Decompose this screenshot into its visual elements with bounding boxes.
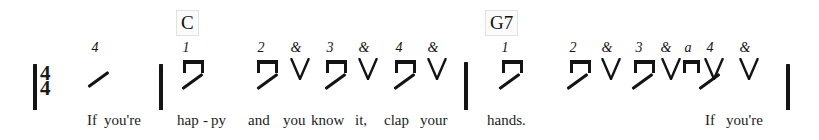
time-signature-denominator: 4: [40, 81, 50, 96]
count-label: 4: [392, 41, 406, 55]
time-signature: 44: [40, 66, 50, 96]
count-label: &: [659, 41, 673, 55]
lyric-syllable: and: [248, 112, 270, 128]
lyric-syllable: -: [203, 112, 208, 128]
count-label: a: [681, 41, 695, 55]
count-label: &: [357, 41, 371, 55]
slash-1: [181, 73, 203, 90]
lyric-syllable: hap: [177, 112, 199, 128]
count-label: 2: [254, 41, 268, 55]
lyric-syllable: it,: [355, 112, 367, 128]
count-label: &: [289, 41, 303, 55]
barline-2: [464, 62, 468, 110]
lyric-syllable: you're: [104, 112, 141, 128]
slash-7: [631, 73, 653, 90]
stroke-down-a: [683, 60, 700, 73]
count-label: 1: [498, 41, 512, 55]
count-label: 4: [88, 41, 102, 55]
barline-opening: [33, 64, 37, 110]
slash-5: [498, 73, 520, 90]
slash-pickup: [87, 71, 109, 88]
barline-final: [786, 64, 790, 110]
slash-2: [256, 73, 278, 90]
lyric-syllable: your: [420, 112, 448, 128]
stroke-up-7and: [661, 58, 681, 80]
chord-c[interactable]: C: [176, 10, 199, 36]
stroke-down-3: [326, 60, 347, 73]
lyric-syllable: know: [311, 112, 344, 128]
count-label: 2: [566, 41, 580, 55]
stroke-up-6and: [601, 58, 621, 80]
stroke-down-7: [634, 60, 655, 73]
slash-6: [566, 73, 588, 90]
count-label: 3: [323, 41, 337, 55]
count-label: &: [426, 41, 440, 55]
lyric-syllable: you're: [726, 112, 763, 128]
count-label: &: [600, 41, 614, 55]
stroke-down-1: [183, 60, 204, 73]
stroke-down-4: [395, 60, 416, 73]
barline-1: [159, 64, 163, 110]
stroke-down-2: [257, 60, 278, 73]
stroke-down-6: [570, 60, 591, 73]
chord-g7[interactable]: G7: [485, 10, 518, 36]
stroke-up-3and: [358, 58, 378, 80]
count-label: 1: [179, 41, 193, 55]
lyric-syllable: If: [87, 112, 97, 128]
stroke-up-8and: [739, 58, 759, 80]
slash-4: [393, 73, 415, 90]
stroke-up-2and: [290, 58, 310, 80]
count-label: 4: [703, 41, 717, 55]
count-label: &: [738, 41, 752, 55]
lyric-syllable: If: [705, 112, 715, 128]
lyric-syllable: clap: [384, 112, 409, 128]
slash-3: [324, 73, 346, 90]
lyric-syllable: py: [211, 112, 226, 128]
lyric-syllable: you: [283, 112, 306, 128]
strumming-pattern-sheet: 44CG7412&3&4&12&3&a4&Ifyou'rehap-pyandyo…: [0, 0, 819, 140]
stroke-down-5: [502, 60, 523, 73]
count-label: 3: [632, 41, 646, 55]
lyric-syllable: hands.: [487, 112, 526, 128]
stroke-up-4and: [427, 58, 447, 80]
